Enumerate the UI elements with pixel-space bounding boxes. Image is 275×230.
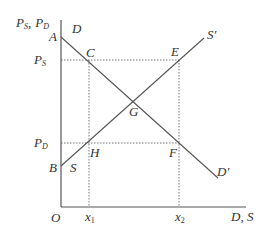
- x-axis-label: D, S: [230, 209, 254, 224]
- point-e-label: E: [170, 44, 179, 59]
- x1-label: x1: [84, 209, 95, 225]
- demand-end-label: D′: [216, 164, 229, 179]
- point-a-label: A: [48, 29, 57, 44]
- supply-start-label: S: [70, 160, 77, 175]
- pd-label: PD: [33, 135, 48, 151]
- y-axis-label: PS,PD: [15, 15, 49, 31]
- point-g-label: G: [129, 104, 139, 119]
- ps-label: PS: [33, 52, 46, 68]
- demand-curve: [61, 37, 218, 178]
- point-b-label: B: [49, 160, 57, 175]
- origin-label: O: [51, 210, 61, 225]
- x2-label: x2: [174, 209, 185, 225]
- supply-end-label: S′: [207, 27, 217, 42]
- demand-start-label: D: [71, 21, 82, 36]
- point-f-label: F: [168, 145, 178, 160]
- point-h-label: H: [89, 145, 100, 160]
- supply-demand-diagram: PS,PD A D C E S′ G H F B S D′ PS PD O x1…: [0, 0, 275, 230]
- point-c-label: C: [86, 45, 95, 60]
